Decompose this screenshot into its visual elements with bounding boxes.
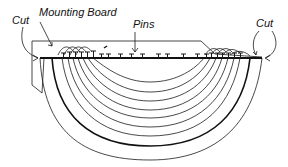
label-cut-right: Cut bbox=[256, 17, 274, 29]
mounting-board-arrow bbox=[40, 22, 52, 46]
label-cut-left: Cut bbox=[12, 14, 30, 26]
pins-arrow bbox=[132, 32, 138, 52]
label-pins: Pins bbox=[133, 18, 155, 30]
cut-left-arrow bbox=[22, 27, 38, 61]
mounting-diagram: Cut Mounting Board Pins Cut bbox=[0, 0, 288, 167]
specimen-arcs bbox=[40, 58, 262, 160]
label-mounting-board: Mounting Board bbox=[39, 6, 118, 18]
